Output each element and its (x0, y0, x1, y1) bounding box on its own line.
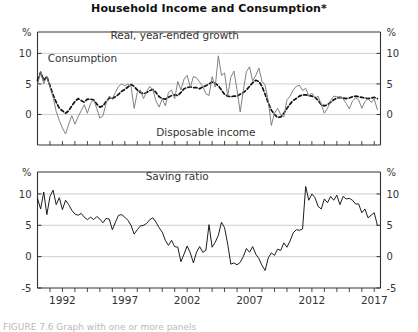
ytick-label-left: 5 (25, 79, 31, 90)
panel-lower: -5-500551010%%199219972002200720122017Sa… (19, 167, 399, 306)
yaxis-unit-right: % (387, 167, 397, 178)
ytick-label-left: -5 (22, 283, 32, 294)
ytick-label-right: 10 (387, 48, 400, 59)
annotation-label: Disposable income (156, 126, 255, 138)
xtick-label: 1992 (49, 294, 76, 306)
ytick-label-right: 10 (387, 189, 400, 200)
yaxis-unit-left: % (22, 167, 32, 178)
series-line-saving-ratio (38, 186, 378, 270)
xtick-label: 2017 (361, 294, 388, 306)
annotation-label: Consumption (48, 52, 118, 64)
xtick-label: 2007 (236, 294, 263, 306)
figure-caption: FIGURE 7.6 Graph with one or more panels (3, 322, 413, 332)
ytick-label-left: 10 (19, 189, 32, 200)
annotation-label: Real, year-ended growth (110, 29, 239, 41)
xtick-label: 1997 (111, 294, 138, 306)
annotation-label: Saving ratio (146, 170, 209, 182)
xtick-label: 2012 (299, 294, 326, 306)
ytick-label-right: 0 (387, 251, 393, 262)
ytick-label-left: 0 (25, 109, 31, 120)
ytick-label-right: -5 (387, 283, 397, 294)
yaxis-unit-right: % (387, 27, 397, 38)
ytick-label-left: 10 (19, 48, 32, 59)
ytick-label-left: 5 (25, 220, 31, 231)
ytick-label-right: 0 (387, 109, 393, 120)
xtick-label: 2002 (174, 294, 201, 306)
ytick-label-right: 5 (387, 79, 393, 90)
ytick-label-right: 5 (387, 220, 393, 231)
panel-upper: 00551010%%Real, year-ended growthConsump… (19, 27, 399, 145)
series-line-disposable-income (38, 56, 378, 134)
ytick-label-left: 0 (25, 251, 31, 262)
yaxis-unit-left: % (22, 27, 32, 38)
